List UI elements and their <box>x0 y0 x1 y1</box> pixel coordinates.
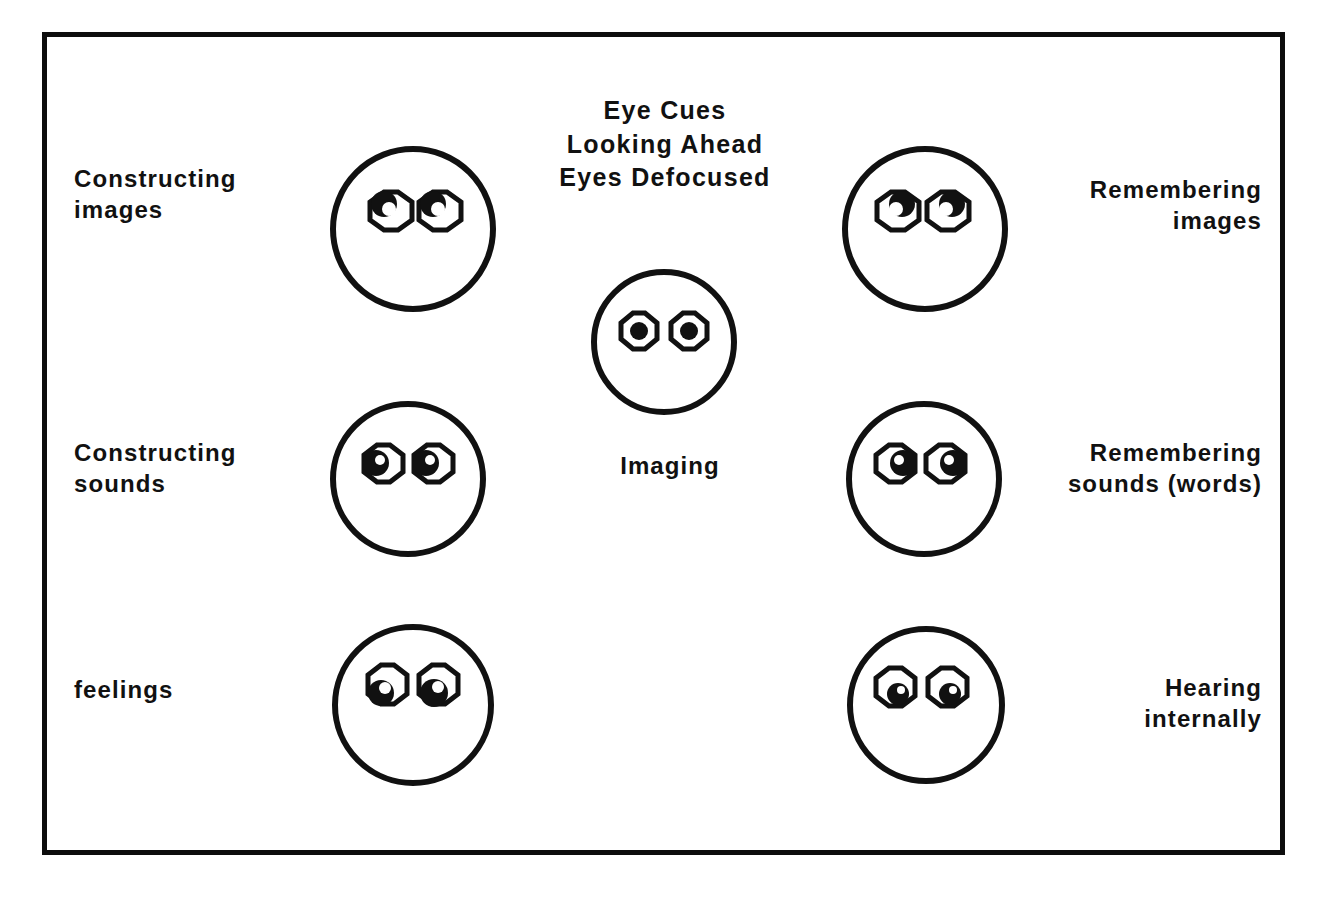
constructing-images-face <box>327 143 499 315</box>
left-eye-icon <box>363 445 403 482</box>
diagram-title: Eye Cues Looking Ahead Eyes Defocused <box>470 94 860 195</box>
label-remembering-sounds: Remembering sounds (words) <box>960 437 1262 499</box>
diagram-canvas: Eye Cues Looking Ahead Eyes Defocused <box>0 0 1327 898</box>
label-hearing-internally: Hearing internally <box>1000 672 1262 734</box>
label-constructing-images: Constructing images <box>74 163 334 225</box>
label-imaging: Imaging <box>545 450 795 481</box>
right-eye-icon <box>419 665 458 707</box>
hearing-internally-face <box>843 622 1009 788</box>
constructing-sounds-face <box>327 398 489 560</box>
feelings-face <box>328 620 498 790</box>
left-eye-icon <box>368 665 407 706</box>
right-eye-icon <box>419 191 461 230</box>
left-eye-icon <box>877 191 919 230</box>
left-eye-icon <box>621 313 657 349</box>
left-eye-icon <box>876 445 916 482</box>
right-eye-icon <box>413 445 453 482</box>
left-eye-icon <box>370 191 412 230</box>
left-eye-icon <box>876 668 915 706</box>
label-constructing-sounds: Constructing sounds <box>74 437 334 499</box>
right-eye-icon <box>927 191 969 230</box>
remembering-images-face <box>839 143 1011 315</box>
label-feelings: feelings <box>74 674 334 705</box>
right-eye-icon <box>671 313 707 349</box>
right-eye-icon <box>928 668 967 706</box>
label-remembering-images: Remembering images <box>1000 174 1262 236</box>
imaging-face <box>588 266 740 418</box>
